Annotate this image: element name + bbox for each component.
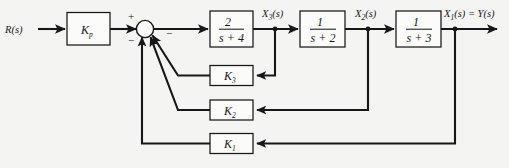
svg-text:X1(s) = Y(s): X1(s) = Y(s) <box>443 8 495 22</box>
g2-numerator: 1 <box>317 15 323 29</box>
sum-sign-minus-left: − <box>128 34 134 46</box>
sum-sign-minus-right: − <box>166 27 172 39</box>
g1-denominator: s + 4 <box>219 31 244 45</box>
summing-junction-circle <box>136 20 153 37</box>
g2-denominator: s + 2 <box>311 31 336 45</box>
svg-text:X2(s): X2(s) <box>354 8 377 22</box>
reference-input-label: R(s) <box>4 24 23 36</box>
block-diagram-canvas: R(s) Kp 2 s + 4 1 s + 2 1 s + 3 K3 K2 K1… <box>0 0 509 168</box>
g3-denominator: s + 3 <box>407 31 432 45</box>
svg-text:X3(s): X3(s) <box>261 8 284 22</box>
sum-sign-plus: + <box>128 10 134 22</box>
signal-x2-label: X2(s) <box>354 8 377 22</box>
signal-x3-label: X3(s) <box>261 8 284 22</box>
system-output-label: X1(s) = Y(s) <box>443 8 495 22</box>
g1-numerator: 2 <box>225 15 231 29</box>
g3-numerator: 1 <box>413 15 419 29</box>
